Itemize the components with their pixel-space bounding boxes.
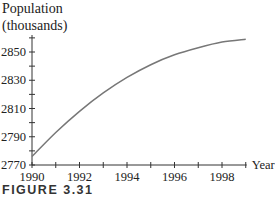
y-tick-label: 2830: [1, 73, 26, 87]
y-tick-label: 2790: [1, 130, 26, 144]
tick-labels: 1990199219941996199827702790281028302850: [1, 45, 235, 184]
x-tick-label: 1994: [115, 170, 141, 184]
x-tick-label: 1990: [20, 170, 45, 184]
chart-plot: 1990199219941996199827702790281028302850…: [0, 0, 275, 204]
x-tick-label: 1992: [67, 170, 92, 184]
axes: [29, 35, 247, 168]
x-tick-label: 1998: [210, 170, 235, 184]
x-tick-label: 1996: [162, 170, 187, 184]
population-curve: [32, 39, 246, 156]
x-axis-label: Year: [252, 158, 275, 172]
y-tick-label: 2850: [1, 45, 26, 59]
y-tick-label: 2770: [1, 158, 26, 172]
figure-caption: FIGURE 3.31: [2, 183, 94, 197]
y-tick-label: 2810: [1, 102, 26, 116]
